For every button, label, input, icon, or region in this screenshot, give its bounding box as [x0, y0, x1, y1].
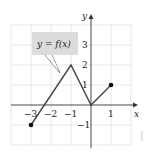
x-tick-label: −2 — [44, 109, 57, 119]
y-axis-arrow-icon — [89, 14, 94, 19]
x-tick-label: 1 — [108, 109, 114, 119]
function-label: y = f(x) — [36, 39, 71, 49]
y-axis-label: y — [81, 11, 88, 21]
x-axis-label: x — [134, 109, 139, 119]
endpoint-dot — [109, 83, 114, 88]
x-axis-arrow-icon — [133, 103, 138, 108]
y-tick-label: 2 — [82, 60, 88, 70]
y-tick-label: 3 — [82, 40, 88, 50]
function-graph: x y −3 −2 −1 1 3 2 1 −1 y = f(x) — [0, 0, 144, 159]
x-tick-label: −1 — [64, 109, 77, 119]
y-tick-label: −1 — [77, 120, 90, 130]
endpoint-dot — [29, 123, 34, 128]
